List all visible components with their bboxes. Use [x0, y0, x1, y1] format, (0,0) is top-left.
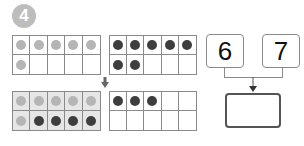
- frame-cell: [48, 55, 65, 74]
- dark-counter: [113, 60, 123, 70]
- dark-counter: [86, 116, 96, 126]
- frame-cell: [110, 36, 127, 55]
- light-counter: [51, 40, 61, 50]
- frame-cell: [127, 55, 144, 74]
- light-counter: [51, 96, 61, 106]
- frame-cell: [65, 36, 82, 55]
- frame-cell: [13, 55, 30, 74]
- frame-cell: [127, 111, 144, 130]
- frame-cell: [110, 111, 127, 130]
- answer-box[interactable]: [225, 93, 281, 128]
- ten-frame-filled: [12, 91, 101, 131]
- dark-counter: [34, 116, 44, 126]
- frame-cell: [30, 111, 47, 130]
- frame-cell: [162, 36, 179, 55]
- frame-cell: [48, 111, 65, 130]
- frame-cell: [162, 111, 179, 130]
- light-counter: [16, 40, 26, 50]
- dark-counter: [113, 40, 123, 50]
- frame-cell: [179, 111, 196, 130]
- frame-cell: [179, 36, 196, 55]
- frame-cell: [127, 36, 144, 55]
- dark-counter: [51, 116, 61, 126]
- light-counter: [68, 96, 78, 106]
- dark-counter: [130, 60, 140, 70]
- ten-frame-six: [12, 35, 101, 75]
- frame-cell: [13, 36, 30, 55]
- dark-counter: [147, 40, 157, 50]
- down-arrow-icon: [101, 77, 109, 88]
- frame-cell: [162, 55, 179, 74]
- addend-box-1: 6: [206, 34, 244, 68]
- dark-counter: [113, 96, 123, 106]
- dark-counter: [130, 40, 140, 50]
- addend-box-2: 7: [262, 34, 300, 68]
- light-counter: [34, 40, 44, 50]
- problem-number-badge: 4: [12, 4, 36, 28]
- frame-cell: [30, 92, 47, 111]
- frame-cell: [65, 92, 82, 111]
- frame-cell: [110, 92, 127, 111]
- dark-counter: [130, 96, 140, 106]
- frame-cell: [110, 55, 127, 74]
- frame-cell: [127, 92, 144, 111]
- frame-cell: [179, 92, 196, 111]
- light-counter: [86, 96, 96, 106]
- frame-cell: [13, 111, 30, 130]
- dark-counter: [68, 116, 78, 126]
- dark-counter: [147, 96, 157, 106]
- frame-cell: [65, 111, 82, 130]
- dark-counter: [165, 40, 175, 50]
- ten-frame-remainder: [109, 91, 197, 131]
- light-counter: [68, 40, 78, 50]
- frame-cell: [144, 92, 161, 111]
- frame-cell: [83, 36, 100, 55]
- light-counter: [34, 96, 44, 106]
- frame-cell: [30, 36, 47, 55]
- frame-cell: [83, 92, 100, 111]
- frame-cell: [48, 92, 65, 111]
- dark-counter: [182, 40, 192, 50]
- frame-cell: [30, 55, 47, 74]
- frame-cell: [83, 55, 100, 74]
- frame-cell: [162, 92, 179, 111]
- light-counter: [16, 60, 26, 70]
- frame-cell: [83, 111, 100, 130]
- light-counter: [86, 40, 96, 50]
- connector-arrow-icon: [249, 77, 257, 93]
- frame-cell: [144, 55, 161, 74]
- frame-cell: [48, 36, 65, 55]
- frame-cell: [13, 92, 30, 111]
- frame-cell: [179, 55, 196, 74]
- ten-frame-seven: [109, 35, 197, 75]
- frame-cell: [144, 111, 161, 130]
- light-counter: [16, 96, 26, 106]
- frame-cell: [65, 55, 82, 74]
- frame-cell: [144, 36, 161, 55]
- light-counter: [16, 116, 26, 126]
